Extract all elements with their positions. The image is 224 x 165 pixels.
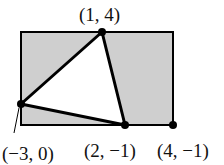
geometry-diagram: (1, 4) (−3, 0) (2, −1) (4, −1) [0,0,224,165]
label-2-neg1: (2, −1) [84,140,136,162]
leader-line [14,108,19,133]
point-neg3-0 [17,100,25,108]
label-1-4: (1, 4) [79,4,120,26]
point-4-neg1 [169,121,177,129]
point-1-4 [98,28,106,36]
point-2-neg1 [121,121,129,129]
label-neg3-0: (−3, 0) [2,143,54,165]
label-4-neg1: (4, −1) [157,140,209,162]
